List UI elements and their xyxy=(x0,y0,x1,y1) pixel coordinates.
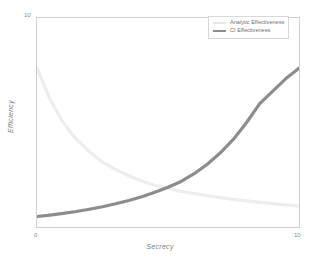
series-line-ci-effectiveness xyxy=(37,68,299,216)
legend-label-ci: CI Effectiveness xyxy=(230,28,270,34)
x-axis-title: Secrecy xyxy=(0,243,320,250)
legend-swatch-icon-analytic xyxy=(213,22,226,24)
chart-legend: Analytic Effectiveness CI Effectiveness xyxy=(208,16,289,39)
curves-svg xyxy=(37,18,299,227)
legend-swatch-icon-ci xyxy=(213,30,226,32)
legend-label-analytic: Analytic Effectiveness xyxy=(230,20,284,26)
plot-area xyxy=(36,17,300,228)
y-axis-tick-max: 10 xyxy=(24,12,31,18)
x-axis-tick-min: 0 xyxy=(34,232,37,238)
legend-item-ci-effectiveness: CI Effectiveness xyxy=(213,27,284,35)
chart-figure: 10 0 10 Secrecy Efficiency Analytic Effe… xyxy=(0,0,320,262)
legend-item-analytic-effectiveness: Analytic Effectiveness xyxy=(213,19,284,27)
y-axis-title: Efficiency xyxy=(7,85,14,149)
x-axis-tick-max: 10 xyxy=(294,232,301,238)
series-line-analytic-effectiveness xyxy=(37,68,299,206)
